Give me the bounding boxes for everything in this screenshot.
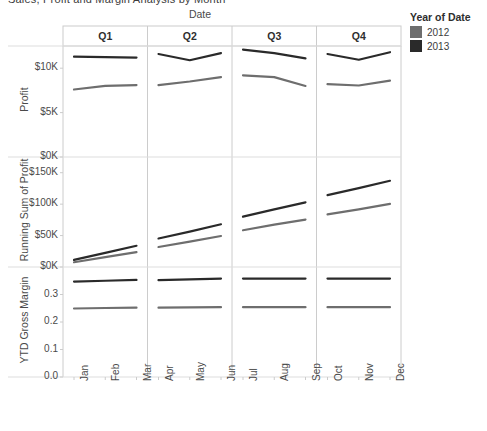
legend-swatch-icon [410, 40, 422, 52]
x-tick-label: Mar [142, 364, 153, 381]
x-tick-label: Apr [164, 365, 175, 381]
quarter-header-q2: Q2 [148, 30, 233, 42]
series-line-2012-Q4 [328, 204, 391, 214]
trellis-chart: Date Q1Q2Q3Q4 $0K$5K$10K$0K$50K$100K$150… [0, 0, 405, 431]
series-line-2013-Q2 [159, 224, 222, 238]
columns-caption: Date [170, 8, 230, 20]
series-line-2012-Q1 [74, 308, 137, 309]
legend: Year of Date 20122013 [410, 11, 485, 54]
x-tick-label: Sep [311, 363, 322, 381]
series-line-2012-Q2 [159, 307, 222, 308]
series-line-2013-Q2 [159, 53, 222, 60]
series-line-2013-Q2 [159, 279, 222, 281]
x-tick-label: Nov [364, 363, 375, 381]
series-line-2012-Q2 [159, 236, 222, 247]
x-tick-label: Oct [333, 365, 344, 381]
series-line-2012-Q1 [74, 85, 137, 89]
legend-item-label: 2013 [427, 41, 449, 52]
row-axis-title: Running Sum of Profit [18, 155, 30, 265]
row-axis-title: Profit [18, 44, 30, 155]
x-tick-label: Feb [110, 364, 121, 381]
legend-item-label: 2012 [427, 27, 449, 38]
series-line-2012-Q4 [328, 81, 391, 86]
quarter-header-q4: Q4 [317, 30, 402, 42]
series-line-2013-Q1 [74, 57, 137, 58]
quarter-header-q1: Q1 [63, 30, 148, 42]
x-tick-label: May [195, 362, 206, 381]
series-line-2012-Q3 [243, 75, 306, 86]
legend-swatch-icon [410, 26, 422, 38]
x-tick-label: Aug [279, 363, 290, 381]
series-line-2013-Q1 [74, 280, 137, 282]
chart-page: Sales, Profit and Margin Analysis by Mon… [0, 0, 487, 431]
legend-item-2013[interactable]: 2013 [410, 40, 485, 52]
legend-item-2012[interactable]: 2012 [410, 26, 485, 38]
x-tick-label: Dec [395, 363, 406, 381]
x-tick-label: Jan [79, 365, 90, 381]
series-line-2012-Q2 [159, 77, 222, 85]
legend-items: 20122013 [410, 26, 485, 52]
x-tick-label: Jun [226, 365, 237, 381]
series-line-2013-Q3 [243, 50, 306, 59]
x-tick-label: Jul [248, 368, 259, 381]
quarter-header-q3: Q3 [232, 30, 317, 42]
row-axis-title: YTD Gross Margin [18, 265, 30, 375]
series-line-2013-Q4 [328, 181, 391, 195]
series-line-2012-Q3 [243, 220, 306, 231]
series-line-2013-Q3 [243, 202, 306, 216]
legend-title: Year of Date [410, 11, 485, 23]
series-line-2013-Q4 [328, 52, 391, 60]
